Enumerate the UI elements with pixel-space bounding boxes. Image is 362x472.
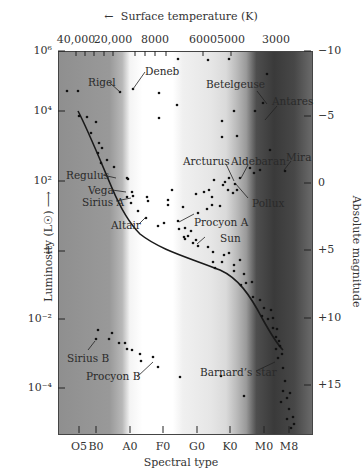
label-mira: Mira — [286, 151, 311, 163]
label-altair: Altair — [111, 219, 141, 231]
label-vega: Vega — [88, 184, 114, 196]
label-sirius-a: Sirius A — [82, 196, 124, 208]
label-deneb: Deneb — [145, 65, 179, 77]
label-arcturus: Arcturus — [183, 155, 230, 167]
main-sequence-curve — [78, 111, 283, 350]
label-regulus: Regulus — [66, 169, 109, 181]
label-barnards-star: Barnard’s star — [200, 366, 277, 378]
label-antares: Antares — [272, 95, 313, 107]
label-pollux: Pollux — [252, 197, 284, 209]
chart-graphics — [0, 0, 362, 472]
label-rigel: Rigel — [88, 76, 116, 88]
label-procyon-a: Procyon A — [194, 216, 248, 228]
label-procyon-b: Procyon B — [86, 370, 140, 382]
label-sirius-b: Sirius B — [67, 352, 109, 364]
label-betelgeuse: Betelgeuse — [206, 78, 265, 90]
label-sun: Sun — [220, 232, 241, 244]
label-aldebaran: Aldebaran — [231, 155, 286, 167]
